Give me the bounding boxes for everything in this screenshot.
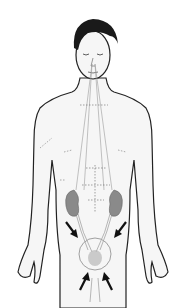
right-kidney [109,190,122,216]
anatomy-illustration [0,0,183,308]
left-kidney [66,190,79,216]
figure-svg [0,0,183,308]
body-outline [18,78,168,308]
